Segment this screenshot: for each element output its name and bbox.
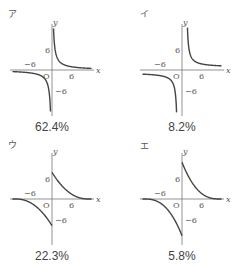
tick-x-positive: 6 (69, 72, 74, 81)
curve-branch-right (182, 162, 222, 199)
x-axis-label: x (96, 195, 101, 204)
figure-canvas: xyO6−66−6ア62.4%xyO6−66−6イ8.2%xyO6−66−6ウ2… (0, 0, 239, 267)
tick-y-negative: −6 (185, 87, 197, 96)
tick-y-negative: −6 (185, 216, 197, 225)
tick-x-negative: −6 (24, 189, 36, 198)
tick-y-positive: 6 (45, 46, 50, 55)
panel-label: イ (140, 9, 149, 19)
percent-label: 8.2% (168, 120, 196, 134)
tick-x-negative: −6 (24, 60, 36, 69)
graph-panel-e: xyO6−66−6エ5.8% (140, 141, 231, 263)
y-axis-label: y (52, 18, 58, 27)
origin-label: O (173, 201, 180, 210)
panel-label: ア (8, 9, 17, 19)
percent-label: 5.8% (168, 249, 196, 263)
graph-panel-u: xyO6−66−6ウ22.3% (8, 140, 101, 263)
panel-label: エ (140, 141, 149, 151)
tick-x-negative: −6 (154, 189, 166, 198)
tick-x-negative: −6 (154, 60, 166, 69)
tick-x-positive: 6 (69, 201, 74, 210)
graph-panel-a: xyO6−66−6ア62.4% (8, 9, 101, 134)
percent-label: 62.4% (35, 120, 69, 134)
y-axis-label: y (182, 147, 188, 156)
panel-label: ウ (8, 140, 17, 150)
percent-label: 22.3% (35, 249, 69, 263)
tick-x-positive: 6 (199, 72, 204, 81)
tick-y-positive: 6 (175, 175, 180, 184)
curve-branch-right (52, 172, 92, 199)
curve-branch-right (187, 28, 221, 66)
y-axis-label: y (182, 18, 188, 27)
tick-x-positive: 6 (199, 201, 204, 210)
x-axis-label: x (226, 66, 231, 75)
x-axis-label: x (96, 66, 101, 75)
graph-panel-i: xyO6−66−6イ8.2% (140, 9, 231, 134)
y-axis-label: y (52, 147, 58, 156)
origin-label: O (173, 72, 180, 81)
tick-y-negative: −6 (55, 87, 67, 96)
tick-y-negative: −6 (55, 216, 67, 225)
curve-branch-right (54, 29, 92, 69)
tick-y-positive: 6 (175, 46, 180, 55)
origin-label: O (43, 72, 50, 81)
curve-branch-left (142, 74, 176, 112)
origin-label: O (43, 201, 50, 210)
x-axis-label: x (226, 195, 231, 204)
tick-y-positive: 6 (45, 175, 50, 184)
